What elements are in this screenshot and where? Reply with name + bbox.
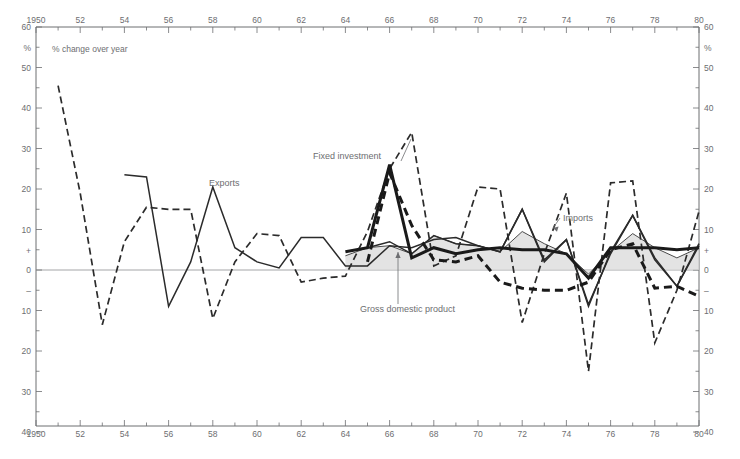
x-tick-label: 60 [252, 15, 262, 25]
x-tick-label: 66 [385, 429, 395, 439]
x-tick-label: 54 [120, 429, 130, 439]
exports-line [124, 175, 699, 307]
x-tick-label: 80 [694, 429, 704, 439]
y-tick-label: % [704, 43, 712, 53]
y-tick-label: 40 [704, 427, 714, 437]
y-tick-label: 10 [22, 225, 32, 235]
y-tick-label: 0 [704, 265, 709, 275]
chart-figure: 6060505040403030202010100010102020303040… [0, 0, 740, 459]
y-tick-label: 30 [704, 144, 714, 154]
economic-change-line-chart: 6060505040403030202010100010102020303040… [0, 0, 740, 459]
x-tick-label: 70 [473, 429, 483, 439]
y-tick-label: 20 [704, 184, 714, 194]
x-tick-label: 72 [517, 15, 527, 25]
y-tick-label: 60 [704, 22, 714, 32]
y-tick-label: 50 [704, 63, 714, 73]
x-tick-label: 74 [562, 15, 572, 25]
y-tick-label: – [26, 286, 31, 296]
x-tick-label: 1950 [27, 15, 46, 25]
x-tick-label: 54 [120, 15, 130, 25]
x-tick-label: 52 [75, 429, 85, 439]
series-label-exports: Exports [209, 178, 240, 188]
chart-note: % change over year [52, 44, 128, 54]
series-label-gdp: Gross domestic product [360, 304, 456, 314]
y-tick-label: 30 [22, 144, 32, 154]
x-tick-label: 58 [208, 429, 218, 439]
y-tick-label: 50 [22, 63, 32, 73]
y-tick-label: 40 [22, 103, 32, 113]
x-tick-label: 56 [164, 15, 174, 25]
x-tick-label: 62 [296, 15, 306, 25]
y-tick-label: 10 [22, 306, 32, 316]
x-tick-label: 68 [429, 15, 439, 25]
series-label-imports: Imports [563, 213, 594, 223]
y-tick-label: 30 [22, 387, 32, 397]
x-tick-label: 68 [429, 429, 439, 439]
x-tick-label: 52 [75, 15, 85, 25]
x-axis-labels: 1950195052525454565658586060626264646666… [27, 15, 704, 439]
y-tick-label: 40 [704, 103, 714, 113]
x-tick-label: 1950 [27, 429, 46, 439]
x-tick-label: 60 [252, 429, 262, 439]
x-tick-label: 72 [517, 429, 527, 439]
x-tick-label: 58 [208, 15, 218, 25]
chart-frame [36, 27, 699, 426]
series-label-fixed-investment: Fixed investment [313, 151, 382, 161]
y-tick-label: + [704, 246, 709, 256]
x-tick-label: 66 [385, 15, 395, 25]
exports-dashed-line [58, 86, 699, 372]
x-tick-label: 64 [341, 429, 351, 439]
y-tick-label: 20 [704, 346, 714, 356]
x-tick-label: 76 [606, 429, 616, 439]
x-tick-label: 78 [650, 429, 660, 439]
y-tick-label: 20 [22, 184, 32, 194]
y-tick-label: 10 [704, 225, 714, 235]
plot-area [58, 86, 699, 372]
y-tick-label: 20 [22, 346, 32, 356]
x-tick-label: 80 [694, 15, 704, 25]
y-tick-label: – [704, 286, 709, 296]
y-tick-label: + [26, 246, 31, 256]
x-tick-label: 78 [650, 15, 660, 25]
x-tick-label: 70 [473, 15, 483, 25]
y-tick-label: % [23, 43, 31, 53]
y-tick-label: 10 [704, 306, 714, 316]
y-tick-label: 0 [26, 265, 31, 275]
x-tick-label: 56 [164, 429, 174, 439]
y-tick-label: 30 [704, 387, 714, 397]
x-tick-label: 74 [562, 429, 572, 439]
x-tick-label: 62 [296, 429, 306, 439]
x-tick-label: 64 [341, 15, 351, 25]
x-tick-label: 76 [606, 15, 616, 25]
